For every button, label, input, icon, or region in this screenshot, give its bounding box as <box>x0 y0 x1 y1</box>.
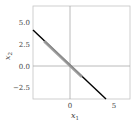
xtick-label-0: 0 <box>68 102 72 110</box>
y-axis-label: x2 <box>3 52 13 60</box>
ytick-label-0: 0.0 <box>19 63 30 71</box>
x-axis-label: x1 <box>71 111 79 121</box>
chart: 5.0 2.5 0.0 −2.5 0 5 x1 x2 <box>0 0 137 122</box>
ytick-label-2-5: 2.5 <box>19 41 30 49</box>
plot-frame <box>33 6 130 99</box>
ytick-label-neg-2-5: −2.5 <box>13 84 30 92</box>
xtick-label-5: 5 <box>112 102 116 110</box>
ytick-label-5: 5.0 <box>19 19 30 27</box>
highlight-segment-series <box>45 42 81 76</box>
